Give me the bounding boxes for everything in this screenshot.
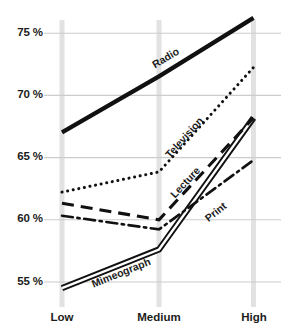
vertical-band-high <box>251 20 256 307</box>
y-tick-label-65: 65 % <box>6 150 43 162</box>
vertical-band-low <box>60 20 65 307</box>
y-tick-label-75: 75 % <box>6 26 43 38</box>
x-category-label-medium: Medium <box>126 311 192 323</box>
x-category-label-high: High <box>224 311 282 323</box>
y-tick-label-70: 70 % <box>6 88 43 100</box>
line-chart: 75 % 70 % 65 % 60 % 55 % Low Medium High… <box>0 0 282 332</box>
y-tick-label-60: 60 % <box>6 212 43 224</box>
y-tick-label-55: 55 % <box>6 275 43 287</box>
x-category-label-low: Low <box>32 311 92 323</box>
